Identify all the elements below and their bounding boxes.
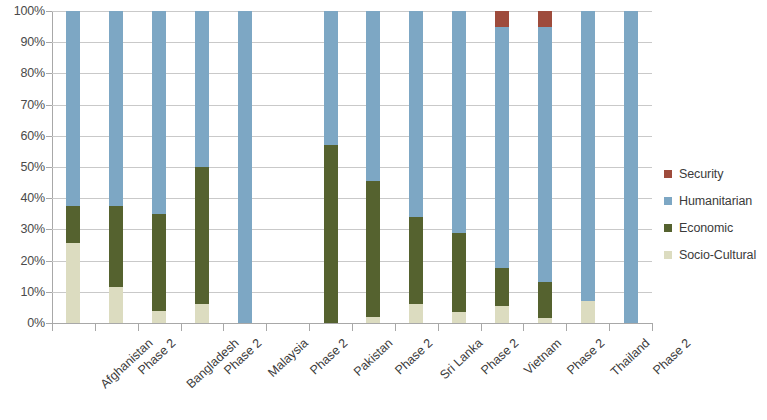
bar-column[interactable]	[624, 11, 638, 323]
bar-segment-socio-cultural[interactable]	[452, 312, 466, 323]
x-axis-category-label: Phase 2	[478, 336, 521, 378]
bar-segment-humanitarian[interactable]	[66, 11, 80, 206]
legend-label: Security	[679, 167, 723, 181]
bar-segment-humanitarian[interactable]	[452, 11, 466, 233]
bar-column[interactable]	[195, 11, 209, 323]
bar-segment-security[interactable]	[495, 11, 509, 27]
x-axis-tick	[566, 324, 567, 331]
legend-item[interactable]: Economic	[664, 214, 767, 241]
bar-segment-economic[interactable]	[66, 206, 80, 243]
x-axis-tick	[481, 324, 482, 331]
bar-segment-humanitarian[interactable]	[495, 27, 509, 269]
y-axis-tick-label: 0%	[0, 316, 45, 330]
bar-segment-socio-cultural[interactable]	[495, 306, 509, 323]
bar-segment-economic[interactable]	[152, 214, 166, 311]
legend-label: Socio-Cultural	[679, 248, 756, 262]
bar-column[interactable]	[238, 11, 252, 323]
x-axis-tick	[652, 324, 653, 331]
x-axis-category-label: Sri Lanka	[437, 336, 485, 382]
legend-swatch-icon	[664, 170, 672, 178]
x-axis-category-label: Thailand	[608, 336, 653, 379]
bar-segment-economic[interactable]	[452, 233, 466, 313]
bar-column[interactable]	[366, 11, 380, 323]
legend-swatch-icon	[664, 224, 672, 232]
bar-column[interactable]	[109, 11, 123, 323]
bar-column[interactable]	[495, 11, 509, 323]
legend-label: Humanitarian	[679, 194, 752, 208]
bar-segment-humanitarian[interactable]	[324, 11, 338, 145]
bar-column[interactable]	[409, 11, 423, 323]
bar-column[interactable]	[538, 11, 552, 323]
y-axis-tick-label: 80%	[0, 66, 45, 80]
x-axis-category-label: Phase 2	[307, 336, 350, 378]
x-axis-tick	[609, 324, 610, 331]
y-axis-tick-label: 40%	[0, 191, 45, 205]
x-axis-tick	[395, 324, 396, 331]
bar-segment-socio-cultural[interactable]	[109, 287, 123, 323]
bar-segment-socio-cultural[interactable]	[66, 243, 80, 323]
x-axis-tick	[266, 324, 267, 331]
y-axis-tick-label: 20%	[0, 254, 45, 268]
bar-segment-socio-cultural[interactable]	[538, 318, 552, 323]
stacked-bar-chart: 0%10%20%30%40%50%60%70%80%90%100% Afghan…	[0, 0, 767, 420]
bar-segment-security[interactable]	[538, 11, 552, 27]
bar-segment-socio-cultural[interactable]	[366, 317, 380, 323]
bar-segment-economic[interactable]	[538, 282, 552, 318]
x-axis-tick	[223, 324, 224, 331]
bar-segment-economic[interactable]	[324, 145, 338, 323]
x-axis-tick	[95, 324, 96, 331]
x-axis-category-label: Vietnam	[521, 336, 564, 377]
x-axis-category-label: Phase 2	[564, 336, 607, 378]
x-axis-tick	[52, 324, 53, 331]
bar-segment-economic[interactable]	[109, 206, 123, 287]
y-axis-tick-label: 30%	[0, 222, 45, 236]
bar-segment-socio-cultural[interactable]	[195, 304, 209, 323]
bar-column[interactable]	[324, 11, 338, 323]
bar-segment-humanitarian[interactable]	[109, 11, 123, 206]
bar-segment-humanitarian[interactable]	[152, 11, 166, 214]
bar-segment-humanitarian[interactable]	[238, 11, 252, 323]
y-axis-tick-label: 60%	[0, 129, 45, 143]
x-axis-tick	[352, 324, 353, 331]
x-axis-tick	[138, 324, 139, 331]
x-axis-tick	[438, 324, 439, 331]
y-axis-tick-label: 100%	[0, 4, 45, 18]
bar-segment-humanitarian[interactable]	[366, 11, 380, 181]
plot-area	[52, 11, 652, 323]
bar-segment-humanitarian[interactable]	[538, 27, 552, 283]
legend-swatch-icon	[664, 197, 672, 205]
chart-legend: SecurityHumanitarianEconomicSocio-Cultur…	[664, 160, 767, 268]
x-axis-category-label: Phase 2	[650, 336, 693, 378]
bar-column[interactable]	[581, 11, 595, 323]
bar-segment-humanitarian[interactable]	[624, 11, 638, 323]
bar-segment-socio-cultural[interactable]	[152, 311, 166, 323]
x-axis-tick	[523, 324, 524, 331]
y-axis-tick-label: 90%	[0, 35, 45, 49]
legend-item[interactable]: Humanitarian	[664, 187, 767, 214]
bar-segment-socio-cultural[interactable]	[581, 301, 595, 323]
bar-column[interactable]	[152, 11, 166, 323]
bar-segment-socio-cultural[interactable]	[409, 304, 423, 323]
x-axis-category-label: Phase 2	[393, 336, 436, 378]
y-axis-tick-label: 50%	[0, 160, 45, 174]
bar-segment-humanitarian[interactable]	[409, 11, 423, 217]
bar-segment-economic[interactable]	[409, 217, 423, 304]
x-axis-category-label: Malaysia	[265, 336, 311, 380]
bar-column[interactable]	[452, 11, 466, 323]
bar-segment-economic[interactable]	[366, 181, 380, 317]
legend-item[interactable]: Socio-Cultural	[664, 241, 767, 268]
y-axis-tick-label: 10%	[0, 285, 45, 299]
y-axis-tick-label: 70%	[0, 98, 45, 112]
bar-segment-economic[interactable]	[495, 268, 509, 305]
bar-segment-economic[interactable]	[195, 167, 209, 304]
legend-label: Economic	[679, 221, 733, 235]
bar-segment-humanitarian[interactable]	[581, 11, 595, 301]
x-axis-tick	[309, 324, 310, 331]
legend-item[interactable]: Security	[664, 160, 767, 187]
bar-segment-humanitarian[interactable]	[195, 11, 209, 167]
x-axis-category-label: Pakistan	[350, 336, 395, 379]
x-axis-tick	[181, 324, 182, 331]
bar-column[interactable]	[66, 11, 80, 323]
legend-swatch-icon	[664, 251, 672, 259]
